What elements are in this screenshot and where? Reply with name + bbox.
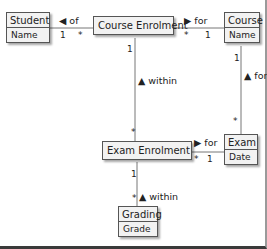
- multiplicity-ee-exam-many: *: [194, 155, 199, 164]
- class-course[interactable]: Course Name: [224, 12, 260, 43]
- class-name: Course Enrolment: [94, 17, 173, 34]
- class-attribute: Name: [225, 28, 259, 42]
- class-course-enrolment[interactable]: Course Enrolment: [93, 16, 174, 35]
- class-grading[interactable]: Grading Grade: [118, 206, 158, 237]
- multiplicity-ce-1: 1: [127, 45, 133, 54]
- assoc-label-within-course-enrolment: ▲ within: [138, 76, 177, 86]
- assoc-label-for-course: ▶ for: [184, 16, 207, 26]
- multiplicity-ee-many: *: [131, 128, 136, 137]
- multiplicity-ce-course-many: *: [184, 31, 189, 40]
- assoc-label-for-exam-course: ▲ for: [244, 71, 267, 81]
- class-exam[interactable]: Exam Date: [224, 134, 258, 165]
- class-name: Student: [7, 13, 49, 28]
- multiplicity-ee-1: 1: [131, 170, 137, 179]
- class-name: Exam Enrolment: [103, 142, 191, 159]
- assoc-label-for-exam: ▶ for: [194, 138, 217, 148]
- class-attribute: Grade: [119, 222, 157, 236]
- class-exam-enrolment[interactable]: Exam Enrolment: [102, 141, 192, 160]
- multiplicity-exam-1: 1: [207, 155, 213, 164]
- class-name: Exam: [225, 135, 257, 150]
- assoc-label-of: ◀ of: [59, 16, 78, 26]
- multiplicity-course-exam-1: 1: [234, 54, 240, 63]
- multiplicity-ce-student-many: *: [78, 31, 83, 40]
- multiplicity-exam-many: *: [233, 117, 238, 126]
- class-attribute: Name: [7, 28, 49, 42]
- class-name: Course: [225, 13, 259, 28]
- multiplicity-grading-many: *: [132, 194, 137, 203]
- multiplicity-student-1: 1: [60, 31, 66, 40]
- class-name: Grading: [119, 207, 157, 222]
- multiplicity-course-1: 1: [205, 31, 211, 40]
- class-student[interactable]: Student Name: [6, 12, 50, 43]
- assoc-label-within-exam-enrolment: ▲ within: [139, 192, 178, 202]
- class-attribute: Date: [225, 150, 257, 164]
